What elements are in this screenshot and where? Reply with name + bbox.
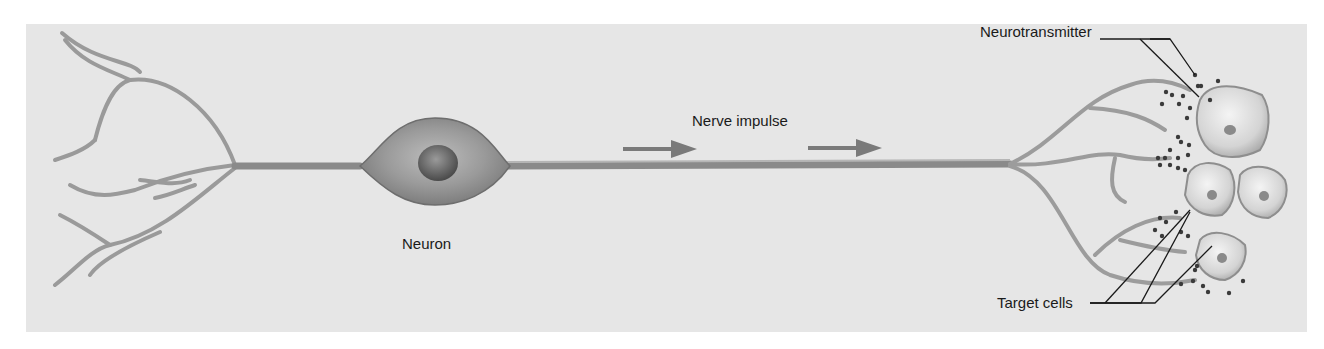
nerve-impulse-arrows bbox=[623, 139, 882, 158]
nucleus bbox=[418, 145, 458, 181]
axon bbox=[235, 164, 1010, 166]
neurotransmitter-label: Neurotransmitter bbox=[980, 24, 1092, 39]
neuron-label: Neuron bbox=[402, 236, 451, 251]
neuron-illustration bbox=[0, 0, 1324, 349]
nerve-impulse-label: Nerve impulse bbox=[692, 113, 788, 128]
target-cells bbox=[1185, 86, 1287, 280]
dendrites bbox=[55, 33, 235, 285]
target-cells-label: Target cells bbox=[997, 295, 1073, 310]
